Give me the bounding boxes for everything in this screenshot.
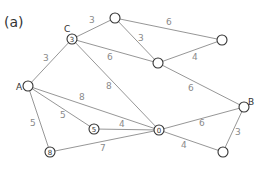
node-b-letter: B xyxy=(248,97,254,107)
edge-weights: 3 3 6 8 6 3 4 6 8 5 5 4 7 6 4 3 xyxy=(30,15,241,153)
node-5-value: 5 xyxy=(92,126,96,134)
node-a-letter: A xyxy=(16,82,23,92)
node-mid xyxy=(153,58,163,68)
weight-a-c: 3 xyxy=(43,53,49,63)
weight-b-bottomright: 3 xyxy=(235,127,241,137)
edge-top-mid xyxy=(115,18,158,63)
weight-a-n5: 5 xyxy=(60,110,66,120)
node-top xyxy=(110,13,120,23)
node-bottomleft-value: 8 xyxy=(48,149,52,157)
figure-label: (a) xyxy=(4,14,24,30)
weight-bottomleft-center: 7 xyxy=(100,143,106,153)
node-topright xyxy=(217,35,227,45)
edge-mid-b xyxy=(158,63,244,107)
weight-a-bottomleft: 5 xyxy=(30,118,36,128)
weight-top-topright: 6 xyxy=(166,17,172,27)
weight-c-center: 8 xyxy=(106,81,112,91)
weight-mid-topright: 4 xyxy=(192,52,198,62)
weight-center-b: 6 xyxy=(199,118,205,128)
weight-mid-b: 6 xyxy=(188,83,194,93)
weight-c-mid: 6 xyxy=(107,52,113,62)
nodes xyxy=(23,13,249,157)
edge-a-center xyxy=(28,86,159,130)
weight-center-bottomright: 4 xyxy=(181,140,187,150)
edge-c-center xyxy=(72,39,159,130)
node-bottomright xyxy=(218,147,228,157)
graph-diagram: 3 3 6 8 6 3 4 6 8 5 5 4 7 6 4 3 3 5 0 8 xyxy=(0,0,269,173)
node-values: 3 5 0 8 xyxy=(48,36,161,157)
edge-c-mid xyxy=(72,39,158,63)
node-a xyxy=(23,81,33,91)
edge-b-bottomright xyxy=(223,107,244,152)
edges xyxy=(28,18,244,152)
weight-c-top: 3 xyxy=(89,15,95,25)
node-center-value: 0 xyxy=(157,127,161,135)
edge-mid-topright xyxy=(158,40,222,63)
weight-a-center: 8 xyxy=(79,92,85,102)
weight-n5-center: 4 xyxy=(119,119,125,129)
node-c-letter: C xyxy=(64,24,70,34)
edge-center-bottomright xyxy=(159,130,223,152)
weight-top-mid: 3 xyxy=(138,33,144,43)
node-c-value: 3 xyxy=(70,36,74,44)
edge-a-c xyxy=(28,39,72,86)
edge-n5-center xyxy=(94,129,159,130)
